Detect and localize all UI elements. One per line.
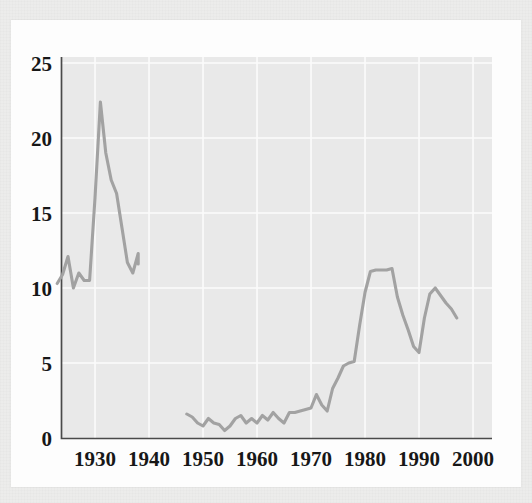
x-tick-label-1980: 1980 [344,447,386,471]
x-tick-label-1970: 1970 [290,447,332,471]
x-tick-label-1940: 1940 [128,447,170,471]
x-tick-label-1990: 1990 [398,447,440,471]
x-tick-label-1930: 1930 [74,447,116,471]
y-tick-label-0: 0 [42,427,53,451]
x-tick-label-1950: 1950 [182,447,224,471]
x-tick-label-1960: 1960 [236,447,278,471]
x-tick-label-2000: 2000 [452,447,494,471]
y-tick-label-25: 25 [31,52,52,76]
figure-page: 0510152025 19301940195019601970198019902… [0,0,532,503]
y-tick-label-10: 10 [31,277,52,301]
y-tick-label-20: 20 [31,127,52,151]
y-axis-tick-labels: 0510152025 [31,52,52,451]
y-tick-label-5: 5 [42,352,53,376]
line-chart: 0510152025 19301940195019601970198019902… [0,0,532,503]
x-axis-tick-labels: 19301940195019601970198019902000 [74,447,494,471]
y-tick-label-15: 15 [31,202,52,226]
